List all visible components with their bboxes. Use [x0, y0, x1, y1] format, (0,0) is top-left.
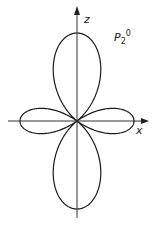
polar-diagram	[0, 0, 161, 225]
title-main: P	[114, 31, 121, 44]
z-axis-label: z	[84, 14, 90, 25]
title-sub: 2	[121, 37, 126, 46]
z-axis-arrow-icon	[74, 6, 80, 15]
title-sup: 0	[126, 29, 131, 38]
x-axis-label: x	[136, 125, 143, 136]
diagram-title: P20	[114, 30, 131, 46]
